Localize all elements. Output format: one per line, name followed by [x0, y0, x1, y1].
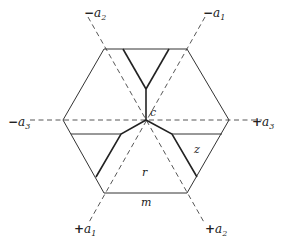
hexagonal-phase-diagram: −a2 −a1 −a3 +a3 +a1 +a2 c r z m [0, 0, 288, 248]
top-boundaries [123, 49, 169, 120]
label-z: z [193, 143, 200, 156]
label-m: m [141, 196, 151, 209]
label-neg-a1: −a1 [203, 6, 225, 22]
top-left-boundary [123, 49, 146, 89]
label-neg-a2: −a2 [84, 6, 106, 22]
label-r: r [142, 166, 148, 179]
label-c: c [150, 106, 156, 119]
lower-left-boundary [96, 120, 146, 177]
label-pos-a2: +a2 [205, 222, 227, 238]
label-neg-a3: −a3 [8, 115, 30, 131]
lower-right-boundary [146, 120, 197, 177]
label-pos-a1: +a1 [74, 222, 96, 238]
label-pos-a3: +a3 [252, 115, 274, 131]
top-right-boundary [146, 49, 169, 89]
